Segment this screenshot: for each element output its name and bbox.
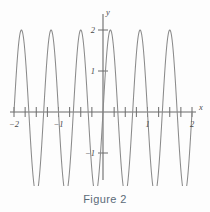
x-tick-label: −1 [54, 119, 64, 129]
figure-caption: Figure 2 [0, 186, 210, 212]
x-tick-label: 1 [145, 119, 149, 129]
axes-group [10, 14, 196, 180]
x-tick-label: 2 [190, 119, 195, 129]
tick-labels-group: −2−112−2−112 [9, 25, 195, 186]
y-axis-label: y [105, 7, 110, 17]
y-tick-label: 2 [91, 25, 96, 35]
x-axis-label: x [198, 102, 203, 112]
figure-container: −2−112−2−112 x y Figure 2 [0, 0, 210, 212]
x-tick-label: −2 [9, 119, 20, 129]
y-tick-label: 1 [91, 66, 95, 76]
sine-wave-chart: −2−112−2−112 x y [0, 0, 210, 186]
y-tick-label: −1 [85, 148, 95, 158]
figure-caption-text: Figure 2 [83, 193, 127, 205]
plot-area: −2−112−2−112 x y [0, 0, 210, 186]
